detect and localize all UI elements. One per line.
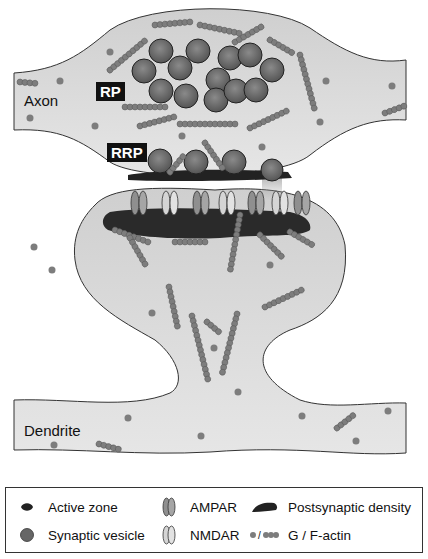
rrp-label: RRP bbox=[107, 143, 147, 162]
synapse-illustration bbox=[0, 0, 428, 460]
axon-label: Axon bbox=[24, 92, 58, 109]
dendrite-label: Dendrite bbox=[24, 422, 81, 439]
postsynaptic-density-icon bbox=[248, 497, 282, 517]
legend-item-actin: / G / F-actin bbox=[248, 524, 351, 546]
synaptic-vesicle-icon bbox=[12, 525, 42, 545]
nmdar-icon bbox=[154, 525, 184, 545]
legend-item-active-zone: Active zone bbox=[12, 496, 118, 518]
legend-item-postsynaptic-density: Postsynaptic density bbox=[248, 496, 411, 518]
actin-icon: / bbox=[248, 525, 282, 545]
svg-text:/: / bbox=[258, 530, 261, 540]
legend: Active zone AMPAR Postsynaptic density S… bbox=[5, 487, 423, 553]
ampar-icon bbox=[154, 497, 184, 517]
legend-item-synaptic-vesicle: Synaptic vesicle bbox=[12, 524, 145, 546]
reserve-pool-vesicles bbox=[132, 39, 284, 112]
legend-item-nmdar: NMDAR bbox=[154, 524, 240, 546]
active-zone-icon bbox=[12, 497, 42, 517]
legend-item-ampar: AMPAR bbox=[154, 496, 237, 518]
rp-label: RP bbox=[96, 82, 125, 101]
synapse-diagram: Axon RP RRP Dendrite bbox=[0, 0, 428, 460]
